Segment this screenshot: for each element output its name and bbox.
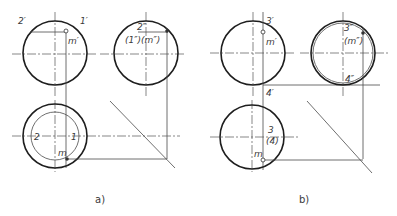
panel-b-top-view: 3 (4) m: [210, 100, 363, 172]
label-1: 1: [71, 132, 77, 142]
label-m-prime: m′: [68, 36, 79, 46]
label-4-prime: 4′: [266, 88, 274, 98]
point-m-marker: [361, 31, 365, 35]
label-hidden-points: (1″)(m″): [125, 35, 160, 45]
label-4-double-prime: 4″: [345, 74, 355, 84]
label-hidden-4: (4): [266, 136, 279, 146]
label-2: 2: [34, 132, 40, 142]
label-2-double-prime: 2″: [137, 22, 147, 32]
point-m-marker: [64, 29, 68, 33]
sphere-projection-diagram: 2′ 1′ m′ 2″ (1″)(m″) 2 1 m: [0, 0, 397, 216]
label-1-prime: 1′: [80, 16, 88, 26]
point-m-marker: [261, 30, 265, 34]
panel-a-top-view: 2 1 m: [12, 100, 180, 172]
panel-a-caption: a): [95, 194, 105, 205]
label-2-prime: 2′: [18, 16, 26, 26]
panel-a-side-view: 2″ (1″)(m″): [100, 12, 185, 159]
label-3: 3: [268, 125, 274, 135]
panel-b: 3′ m′ 4′ 3″ (m″) 4″ 3 (4) m: [210, 12, 390, 205]
label-3-prime: 3′: [266, 16, 274, 26]
label-m: m: [254, 149, 263, 159]
label-3-double-prime: 3″: [344, 23, 354, 33]
panel-b-side-view: 3″ (m″) 4″: [300, 12, 390, 159]
point-m-marker: [165, 29, 169, 33]
label-m: m: [58, 148, 67, 158]
label-hidden-m: (m″): [344, 36, 363, 46]
panel-a: 2′ 1′ m′ 2″ (1″)(m″) 2 1 m: [12, 12, 185, 205]
label-m-prime: m′: [266, 37, 277, 47]
miter-line: [110, 101, 175, 168]
miter-line: [307, 101, 372, 173]
panel-b-caption: b): [299, 194, 309, 205]
